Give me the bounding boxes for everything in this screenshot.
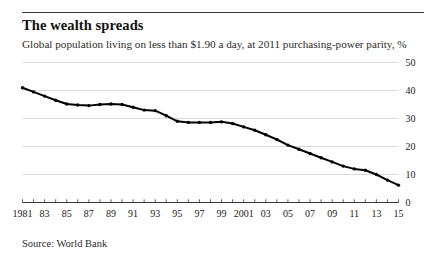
data-point-marker [242,125,245,128]
x-axis-tick-label: 07 [305,208,315,219]
data-point-marker [142,108,145,111]
data-point-marker [43,94,46,97]
data-point-marker [21,86,24,89]
data-point-marker [364,169,367,172]
y-axis-tick-label: 50 [406,57,416,68]
data-point-marker [65,102,68,105]
x-axis-tick-label: 09 [327,208,337,219]
x-axis-tick-label: 05 [283,208,293,219]
data-point-marker [319,156,322,159]
x-axis-tick-label: 91 [128,208,138,219]
x-axis-tick-label: 15 [394,208,404,219]
data-point-marker [109,102,112,105]
data-point-marker [286,143,289,146]
data-series-line [23,88,399,185]
y-axis-tick-label: 30 [406,113,416,124]
x-axis-tick-label: 11 [349,208,359,219]
x-axis-tick-label: 97 [194,208,204,219]
line-chart-svg: 0102030405019818385878991939597992001030… [0,0,446,260]
data-point-marker [297,148,300,151]
data-point-marker [330,160,333,163]
x-axis-tick-label: 99 [217,208,227,219]
data-point-marker [231,122,234,125]
x-axis-tick-label: 83 [40,208,50,219]
data-point-marker [264,133,267,136]
x-axis-tick-label: 03 [261,208,271,219]
data-point-marker [165,114,168,117]
data-point-marker [375,173,378,176]
y-axis-tick-label: 0 [406,197,411,208]
data-point-marker [397,183,400,186]
data-point-marker [220,120,223,123]
data-point-marker [87,104,90,107]
y-axis-tick-label: 40 [406,85,416,96]
x-axis-tick-label: 93 [150,208,160,219]
data-point-marker [253,129,256,132]
data-point-marker [98,103,101,106]
data-point-marker [120,103,123,106]
data-point-marker [198,121,201,124]
data-point-marker [154,109,157,112]
x-axis-tick-label: 95 [172,208,182,219]
data-point-marker [275,138,278,141]
data-point-marker [187,121,190,124]
data-point-marker [32,90,35,93]
data-point-marker [353,167,356,170]
x-axis-tick-label: 1981 [13,208,33,219]
x-axis-tick-label: 87 [84,208,94,219]
chart-figure: The wealth spreads Global population liv… [0,0,446,260]
x-axis-tick-label: 85 [62,208,72,219]
data-point-marker [76,103,79,106]
plot-area: 0102030405019818385878991939597992001030… [0,0,446,260]
data-point-marker [176,120,179,123]
x-axis-tick-label: 13 [371,208,381,219]
chart-source: Source: World Bank [22,238,107,249]
data-point-marker [386,178,389,181]
data-point-marker [308,152,311,155]
y-axis-tick-label: 20 [406,141,416,152]
x-axis-tick-label: 2001 [234,208,254,219]
data-point-marker [342,164,345,167]
data-point-marker [131,106,134,109]
data-point-marker [54,99,57,102]
x-axis-tick-label: 89 [106,208,116,219]
y-axis-tick-label: 10 [406,169,416,180]
data-point-marker [209,121,212,124]
